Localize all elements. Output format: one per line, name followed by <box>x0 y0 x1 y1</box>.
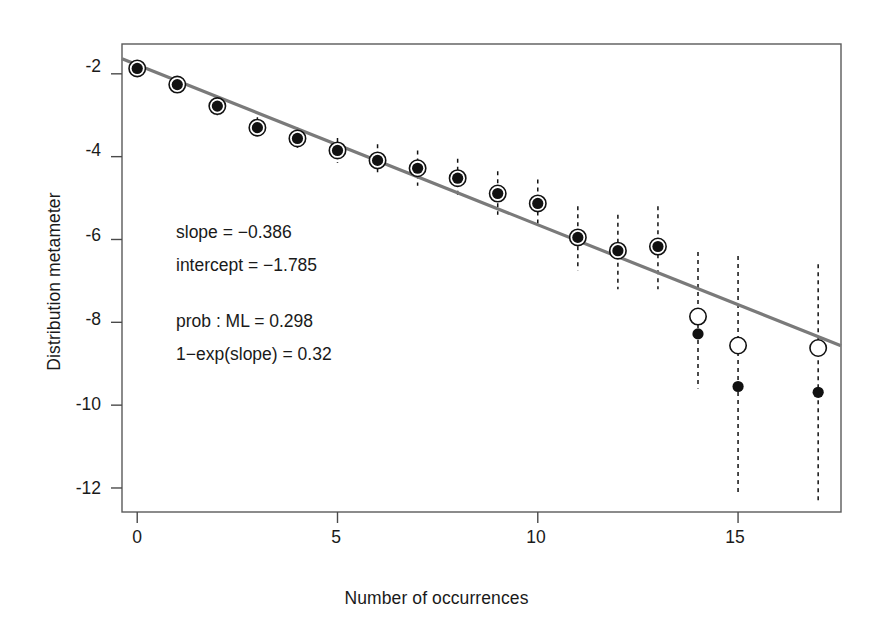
observed-marker-4 <box>292 133 303 144</box>
observed-marker-15 <box>732 381 743 392</box>
observed-marker-8 <box>452 173 463 184</box>
plot-frame <box>122 44 841 512</box>
annotation-prob-ml: prob : ML = 0.298 <box>176 311 313 332</box>
fit-line <box>122 59 841 346</box>
observed-marker-11 <box>572 232 583 243</box>
observed-marker-7 <box>412 163 423 174</box>
annotation-intercept: intercept = −1.785 <box>176 255 317 276</box>
expected-marker-14 <box>690 308 706 324</box>
x-axis-title: Number of occurrences <box>0 588 873 609</box>
expected-marker-15 <box>730 337 746 353</box>
x-tick-label-1: 5 <box>331 527 341 548</box>
observed-marker-16 <box>813 387 824 398</box>
observed-marker-12 <box>612 245 623 256</box>
y-tick-label-4: -10 <box>41 394 101 415</box>
error-bars <box>137 61 818 500</box>
observed-marker-1 <box>172 79 183 90</box>
x-axis-ticks <box>137 512 738 523</box>
y-tick-label-1: -4 <box>41 140 101 161</box>
observed-marker-9 <box>492 188 503 199</box>
x-tick-label-2: 10 <box>526 527 545 548</box>
observed-marker-6 <box>372 155 383 166</box>
annotation-slope: slope = −0.386 <box>176 222 292 243</box>
x-tick-label-3: 15 <box>725 527 744 548</box>
x-tick-label-0: 0 <box>132 527 142 548</box>
observed-marker-14 <box>692 328 703 339</box>
y-tick-label-0: -2 <box>41 56 101 77</box>
chart-figure: Number of occurrences Distribution metam… <box>0 0 873 638</box>
observed-marker-3 <box>252 122 263 133</box>
observed-marker-5 <box>332 145 343 156</box>
observed-marker-10 <box>532 198 543 209</box>
y-tick-label-2: -6 <box>41 225 101 246</box>
observed-marker-0 <box>132 63 143 74</box>
y-tick-label-5: -12 <box>41 478 101 499</box>
y-axis-title: Distribution metameter <box>44 32 65 532</box>
expected-marker-16 <box>810 340 826 356</box>
observed-marker-2 <box>212 101 223 112</box>
y-axis-ticks <box>111 74 122 488</box>
annotation-one-minus-exp-slope: 1−exp(slope) = 0.32 <box>176 344 332 365</box>
observed-marker-13 <box>652 241 663 252</box>
regression-line <box>122 59 841 346</box>
y-tick-label-3: -8 <box>41 309 101 330</box>
